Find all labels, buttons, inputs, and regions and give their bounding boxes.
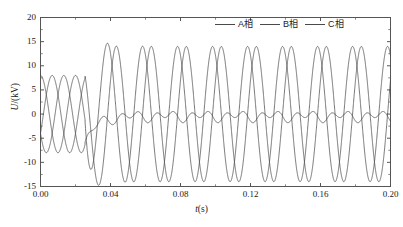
y-tick-label: -5 (8, 134, 36, 143)
chart-legend: A相B相C相 (215, 20, 344, 29)
legend-entry-3: C相 (305, 20, 344, 29)
legend-label: C相 (328, 20, 344, 29)
chart-figure: 20151050-5-10-15 0.000.040.080.120.160.2… (0, 0, 403, 227)
y-axis-title-symbol: U (10, 104, 20, 111)
x-tick-label: 0.08 (166, 190, 196, 199)
legend-line-swatch (215, 24, 235, 25)
y-tick-label: 15 (8, 37, 36, 46)
x-tick-label: 0.04 (96, 190, 126, 199)
legend-label: A相 (238, 20, 253, 29)
y-tick-label: 20 (8, 13, 36, 22)
legend-line-swatch (260, 24, 280, 25)
legend-entry-2: B相 (260, 20, 298, 29)
plot-frame (41, 18, 391, 187)
x-tick-label: 0.00 (26, 190, 56, 199)
x-tick-label: 0.20 (376, 190, 403, 199)
x-axis-title: t(s) (0, 205, 403, 215)
x-axis-title-unit: (s) (198, 204, 208, 214)
y-axis-title: U/(kV) (11, 67, 21, 127)
x-tick-label: 0.12 (236, 190, 266, 199)
y-axis-title-unit: /(kV) (10, 83, 20, 104)
legend-line-swatch (305, 24, 325, 25)
y-tick-label: -10 (8, 158, 36, 167)
waveform-plot (0, 0, 403, 227)
legend-label: B相 (283, 20, 298, 29)
legend-entry-1: A相 (215, 20, 253, 29)
x-tick-label: 0.16 (306, 190, 336, 199)
